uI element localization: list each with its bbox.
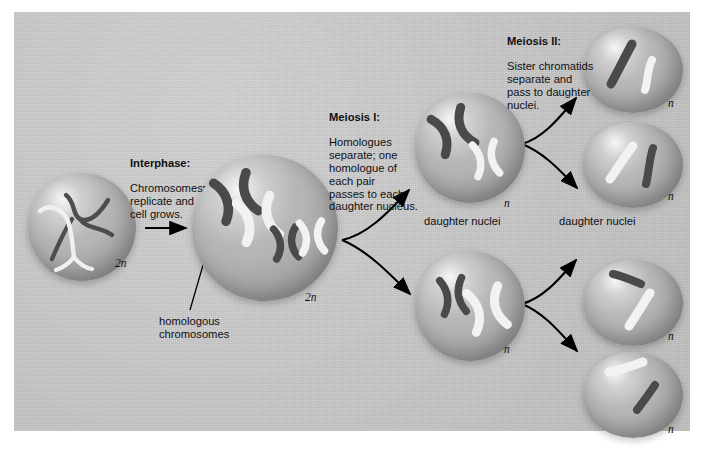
ploidy-label-parent: 2n (305, 291, 317, 303)
meiosis-i-body: Homologues separate; one homologue of ea… (329, 136, 418, 212)
arrow-meiosis-i-lower (342, 240, 410, 294)
chromosome-dark-large (431, 107, 475, 154)
chromosome-dark-small (440, 278, 467, 315)
arrow-meiosis-ii-bottom-upper (522, 260, 576, 304)
chromosome-dark-large-tail (80, 219, 112, 235)
arrow-meiosis-ii-bottom-lower (522, 304, 577, 351)
chromatid-white-large (609, 362, 643, 372)
chromosome-white-small (472, 141, 499, 176)
chromatid-white-large (610, 146, 633, 179)
chromosome-dark-small (273, 227, 298, 259)
chromosome-white-small (56, 257, 74, 270)
ploidy-label-final-2: n (668, 190, 674, 202)
daughter-nuclei-caption-1: daughter nuclei (424, 215, 501, 228)
meiosis-ii-label: Meiosis II: Sister chromatids separate a… (507, 22, 593, 112)
meiosis-ii-heading: Meiosis II: (507, 35, 561, 47)
chromosome-dark-large (66, 195, 108, 220)
chromatid-dark-small (646, 148, 653, 184)
homologous-chromosomes-label: homologous chromosomes (159, 315, 229, 341)
arrow-meiosis-ii-top-lower (522, 144, 577, 188)
condensed-parent-cell[interactable] (192, 155, 338, 301)
meiosis-i-label: Meiosis I: Homologues separate; one homo… (329, 98, 418, 213)
interphase-heading: Interphase: (130, 157, 190, 169)
ploidy-label-final-4: n (668, 423, 674, 435)
chromatid-white-small (645, 60, 652, 90)
diagram-canvas: 2n (14, 12, 690, 431)
ploidy-label-final-3: n (668, 330, 674, 342)
chromatid-dark-large (611, 44, 632, 84)
interphase-body: Chromosomes replicate and cell grows. (130, 182, 203, 220)
interphase-label: Interphase: Chromosomes replicate and ce… (130, 144, 203, 221)
ploidy-label-interphase: 2n (115, 257, 127, 269)
chromatid-dark-small (613, 274, 641, 284)
chromosome-group-prophase (192, 155, 338, 301)
meiosis-ii-body: Sister chromatids separate and pass to d… (507, 60, 593, 110)
chromosome-white-small-branch (74, 257, 92, 269)
ploidy-label-final-1: n (668, 97, 674, 109)
meiosis-i-heading: Meiosis I: (329, 111, 380, 123)
meiosis-diagram-figure: 2n (0, 0, 703, 449)
ploidy-label-daughter-top: n (504, 197, 510, 209)
chromosome-dark-large (214, 173, 259, 222)
ploidy-label-daughter-bottom: n (504, 343, 510, 355)
chromosome-white-large (467, 286, 508, 333)
chromosome-white-small (299, 221, 324, 253)
chromosome-white-large (237, 195, 280, 242)
daughter-nuclei-caption-2: daughter nuclei (559, 215, 636, 228)
chromatid-dark-small (637, 385, 655, 410)
chromatid-white-large (629, 293, 650, 326)
